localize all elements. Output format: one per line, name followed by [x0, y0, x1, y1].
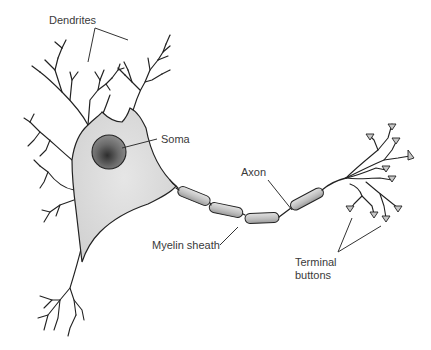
label-soma: Soma — [161, 133, 190, 146]
dendrites-bottom — [38, 245, 84, 336]
myelin-sheath-segments — [176, 185, 325, 224]
dendrites-left — [24, 114, 74, 222]
label-terminal-buttons-line1: Terminal — [295, 256, 337, 269]
nucleus — [92, 135, 126, 169]
label-terminal-buttons-line2: buttons — [295, 269, 331, 282]
label-axon: Axon — [241, 166, 266, 179]
dendrites-leader — [88, 28, 128, 62]
dendrites-top — [32, 35, 170, 125]
myelin-leader — [220, 227, 238, 245]
label-dendrites: Dendrites — [49, 14, 96, 27]
neuron-diagram — [0, 0, 431, 350]
terminal-leader — [338, 218, 381, 252]
axon-leader — [268, 180, 292, 210]
label-myelin-sheath: Myelin sheath — [152, 239, 220, 252]
